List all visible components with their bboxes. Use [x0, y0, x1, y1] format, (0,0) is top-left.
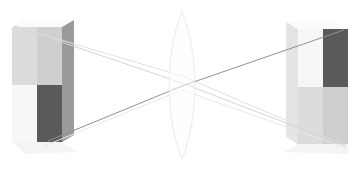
object-box-side-face	[62, 20, 74, 142]
object-quadrant-top-left	[12, 27, 37, 85]
object-box	[12, 20, 78, 154]
object-quadrant-bottom-left	[12, 85, 37, 142]
image-quadrant-bottom-right	[323, 87, 348, 144]
optics-diagram-canvas	[0, 0, 360, 171]
biconvex-lens	[169, 12, 195, 159]
image-quadrant-top-right	[323, 29, 348, 87]
object-quadrant-bottom-right	[37, 85, 62, 142]
ray-diagram-svg	[0, 0, 360, 171]
object-quadrant-top-right	[37, 27, 62, 85]
image-quadrant-top-left	[298, 29, 323, 87]
object-box-shadow	[12, 142, 78, 154]
lens-body	[169, 12, 195, 159]
